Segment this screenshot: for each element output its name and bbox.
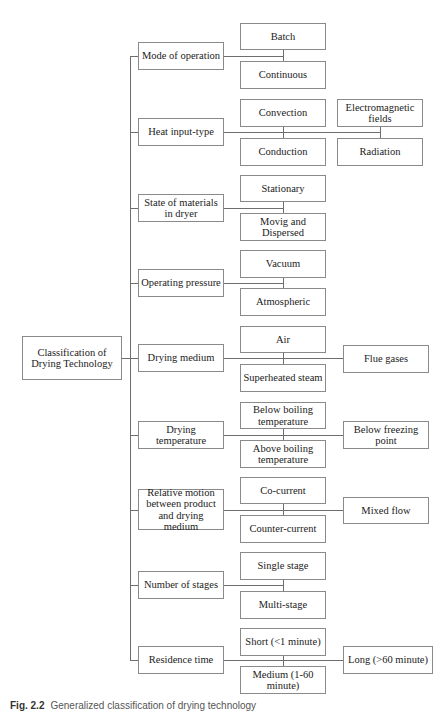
node-radiation: Radiation <box>337 138 423 166</box>
node-counter-current: Counter-current <box>240 515 326 543</box>
connector <box>130 132 138 133</box>
figure-number: Fig. 2.2 <box>10 700 44 711</box>
category-drying-temperature: Drying temperature <box>138 421 224 449</box>
node-flue-gases: Flue gases <box>343 345 429 373</box>
connector <box>224 132 380 133</box>
category-residence-time: Residence time <box>138 646 224 674</box>
node-conduction: Conduction <box>240 138 326 166</box>
node-stationary: Stationary <box>240 175 326 202</box>
connector <box>283 429 284 440</box>
figure-caption-text: Generalized classification of drying tec… <box>50 700 256 711</box>
connector <box>224 56 283 57</box>
connector <box>224 585 283 586</box>
node-continuous: Continuous <box>240 61 326 89</box>
category-mode-of-operation: Mode of operation <box>138 42 224 70</box>
node-air: Air <box>240 326 326 353</box>
connector <box>130 510 138 511</box>
category-drying-medium: Drying medium <box>138 344 224 372</box>
node-atmospheric: Atmospheric <box>240 288 326 316</box>
node-long: Long (>60 minute) <box>343 646 433 674</box>
node-mixed-flow: Mixed flow <box>343 497 429 524</box>
node-below-freezing: Below freezing point <box>343 421 429 449</box>
node-convection: Convection <box>240 99 326 127</box>
connector <box>283 278 284 288</box>
node-co-current: Co-current <box>240 477 326 504</box>
connector <box>130 283 138 284</box>
node-vacuum: Vacuum <box>240 250 326 278</box>
node-electromagnetic-fields: Electromagnetic fields <box>337 99 423 127</box>
category-relative-motion: Relative motion between product and dryi… <box>138 489 224 530</box>
connector <box>130 56 138 57</box>
node-short: Short (<1 minute) <box>240 628 326 656</box>
category-heat-input-type: Heat input-type <box>138 118 224 146</box>
root-node: Classification of Drying Technology <box>22 336 122 380</box>
node-multi-stage: Multi-stage <box>240 591 326 619</box>
node-above-boiling: Above boiling temperature <box>240 440 326 468</box>
connector <box>130 585 138 586</box>
connector <box>283 656 284 666</box>
connector <box>283 504 284 515</box>
node-below-boiling: Below boiling temperature <box>240 402 326 429</box>
category-operating-pressure: Operating pressure <box>138 269 224 297</box>
figure-caption: Fig. 2.2Generalized classification of dr… <box>10 700 256 711</box>
category-number-of-stages: Number of stages <box>138 571 224 599</box>
connector <box>283 127 284 138</box>
connector <box>283 202 284 213</box>
node-batch: Batch <box>240 23 326 50</box>
connector <box>283 353 284 364</box>
node-single-stage: Single stage <box>240 552 326 580</box>
node-moving-dispersed: Movig and Dispersed <box>240 213 326 241</box>
connector <box>224 283 283 284</box>
connector <box>130 208 138 209</box>
connector <box>283 580 284 591</box>
connector <box>380 127 381 138</box>
connector <box>130 435 138 436</box>
category-state-of-materials: State of materials in dryer <box>138 194 224 222</box>
connector <box>130 358 138 359</box>
connector <box>130 660 138 661</box>
node-medium: Medium (1-60 minute) <box>240 666 326 694</box>
connector <box>224 208 283 209</box>
node-superheated-steam: Superheated steam <box>240 364 326 392</box>
connector <box>283 50 284 61</box>
